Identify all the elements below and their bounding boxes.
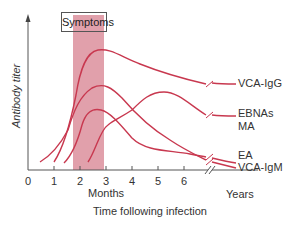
series-label-ebnas: EBNAs — [238, 108, 273, 119]
series-label-ma: MA — [238, 121, 255, 132]
x-tick-1: 1 — [51, 176, 57, 187]
x-tick-4: 4 — [129, 176, 135, 187]
y-axis-arrow-icon — [26, 14, 31, 22]
symptoms-label: Symptoms — [61, 12, 107, 32]
x-tick-5: 5 — [155, 176, 161, 187]
x-axis — [28, 166, 258, 174]
curve-vca-igg-tail — [212, 83, 236, 84]
series-label-vca-igg: VCA-IgG — [238, 78, 282, 89]
curve-ebnas-ma-tail — [212, 115, 236, 116]
x-tick-0: 0 — [25, 176, 31, 187]
x-tick-6: 6 — [181, 176, 187, 187]
x-axis-label: Time following infection — [93, 206, 207, 217]
years-label: Years — [226, 189, 254, 200]
symptoms-band — [73, 15, 104, 170]
x-tick-2: 2 — [77, 176, 83, 187]
y-axis-label: Antibody titer — [10, 64, 22, 128]
x-tick-3: 3 — [103, 176, 109, 187]
months-label: Months — [88, 188, 124, 199]
series-label-vca-igm: VCA-IgM — [238, 162, 283, 173]
series-label-ea: EA — [238, 150, 253, 161]
